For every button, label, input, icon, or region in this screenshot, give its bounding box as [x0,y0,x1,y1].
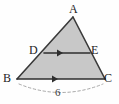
vertex-label-c: C [104,72,112,84]
vertex-label-d: D [29,44,38,56]
vertex-label-a: A [69,3,78,15]
geometry-figure: A B C D E 6 [0,0,119,104]
base-measure-arc [19,84,103,93]
base-measure-label: 6 [55,87,61,98]
vertex-label-b: B [3,72,11,84]
vertex-label-e: E [91,44,98,56]
